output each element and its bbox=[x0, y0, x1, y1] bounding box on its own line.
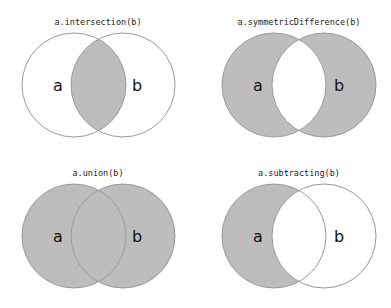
panel-title: a.union(b) bbox=[72, 168, 123, 178]
set-a-label: a bbox=[253, 76, 263, 95]
shaded-region-intersection bbox=[71, 33, 175, 137]
set-a-label: a bbox=[253, 227, 263, 246]
set-a-label: a bbox=[53, 76, 63, 95]
panel-title: a.intersection(b) bbox=[55, 17, 142, 27]
shaded-region-b bbox=[71, 184, 175, 288]
set-b-label: b bbox=[334, 76, 344, 95]
set-operations-diagram: a.intersection(b) a b a.symmetricDiffere… bbox=[0, 0, 391, 308]
panel-intersection: a.intersection(b) a b bbox=[22, 17, 175, 137]
set-b-label: b bbox=[132, 227, 142, 246]
shaded-region-a-minus-b bbox=[222, 184, 326, 288]
panel-title: a.symmetricDifference(b) bbox=[238, 17, 361, 27]
set-a-label: a bbox=[53, 227, 63, 246]
set-b-label: b bbox=[132, 76, 142, 95]
shaded-region-b-only bbox=[272, 33, 376, 137]
panel-title: a.subtracting(b) bbox=[258, 168, 340, 178]
set-b-label: b bbox=[334, 227, 344, 246]
panel-union: a.union(b) a b bbox=[22, 168, 175, 288]
panel-subtracting: a.subtracting(b) a b bbox=[222, 168, 376, 288]
panel-symmetric-difference: a.symmetricDifference(b) a b bbox=[222, 17, 376, 137]
